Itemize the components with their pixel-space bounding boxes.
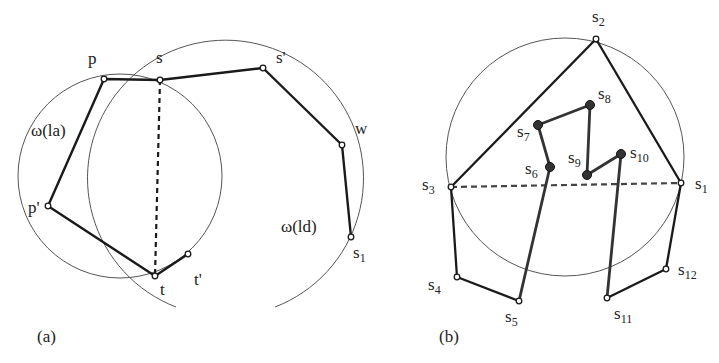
label-s2: s2 <box>592 7 605 29</box>
label-w: w <box>355 119 368 138</box>
label-s12: s12 <box>678 260 697 282</box>
label-s7: s7 <box>517 122 530 144</box>
label-p-prime: p' <box>28 198 40 217</box>
circle-omega-la <box>18 74 222 278</box>
vertex-s5 <box>516 298 522 304</box>
vertex-s <box>157 77 163 83</box>
label-omega-la: ω(la) <box>31 121 66 140</box>
label-s8: s8 <box>598 84 611 106</box>
label-t: t <box>160 280 165 299</box>
label-s4: s4 <box>428 275 441 297</box>
vertex-s7 <box>534 121 543 130</box>
dashed-chord-s-t <box>155 80 160 276</box>
label-s3: s3 <box>422 175 435 197</box>
vertex-s10 <box>617 150 626 159</box>
vertex-s1 <box>348 234 354 240</box>
label-omega-ld: ω(ld) <box>281 217 317 236</box>
vertex-s11 <box>604 295 610 301</box>
vertex-s-prime <box>260 65 266 71</box>
panel-b: s1 s2 s3 s4 s5 s6 s7 s8 s9 s10 s11 s12 (… <box>422 7 708 346</box>
vertex-s8 <box>586 101 595 110</box>
vertex-w <box>339 142 345 148</box>
dashed-chord-s3-s1 <box>451 183 681 187</box>
vertex-s3 <box>448 184 454 190</box>
vertex-p <box>101 76 107 82</box>
label-s6: s6 <box>525 159 538 181</box>
vertex-s1 <box>678 180 684 186</box>
label-s9: s9 <box>568 148 581 170</box>
label-s: s <box>156 48 163 67</box>
label-s5: s5 <box>505 307 518 329</box>
label-s1: s1 <box>353 243 366 265</box>
figure: p s s' w s1 p' t t' ω(la) ω(ld) (a) <box>0 0 719 363</box>
vertex-t-prime <box>185 251 191 257</box>
chain-a <box>48 68 351 276</box>
label-t-prime: t' <box>194 270 202 289</box>
vertex-s9 <box>583 171 592 180</box>
label-s1: s1 <box>695 174 708 196</box>
chain-b-outer <box>451 39 681 301</box>
vertex-s12 <box>663 266 669 272</box>
vertex-p-prime <box>45 203 51 209</box>
label-p: p <box>88 49 97 68</box>
label-s11: s11 <box>614 304 632 326</box>
panel-a: p s s' w s1 p' t t' ω(la) ω(ld) (a) <box>18 40 368 346</box>
caption-a: (a) <box>37 327 56 346</box>
label-s-prime: s' <box>276 48 286 67</box>
vertex-t <box>152 273 158 279</box>
vertex-s4 <box>454 274 460 280</box>
vertex-s6 <box>546 163 555 172</box>
label-s10: s10 <box>630 143 649 165</box>
vertex-s2 <box>593 36 599 42</box>
caption-b: (b) <box>439 327 459 346</box>
